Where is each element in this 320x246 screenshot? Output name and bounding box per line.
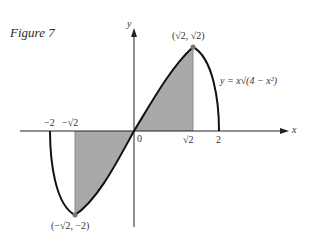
- x-axis-arrow-icon: [280, 128, 289, 134]
- min-point: [73, 213, 78, 218]
- shaded-region-negative: [75, 131, 134, 215]
- shaded-region-positive: [134, 47, 193, 131]
- tick-label-neg-two: −2: [44, 117, 55, 128]
- x-axis-label: x: [292, 124, 296, 135]
- min-point-label: (−√2, −2): [51, 220, 89, 231]
- max-point: [191, 45, 196, 50]
- origin-label: 0: [137, 133, 142, 144]
- y-axis-label: y: [127, 18, 131, 29]
- tick-label-sqrt2: √2: [183, 134, 194, 145]
- tick-label-neg-sqrt2: −√2: [62, 117, 78, 128]
- y-axis-arrow-icon: [131, 28, 137, 37]
- equation-label: y = x√(4 − x²): [220, 75, 277, 86]
- tick-label-two: 2: [216, 134, 221, 145]
- max-point-label: (√2, √2): [172, 30, 205, 41]
